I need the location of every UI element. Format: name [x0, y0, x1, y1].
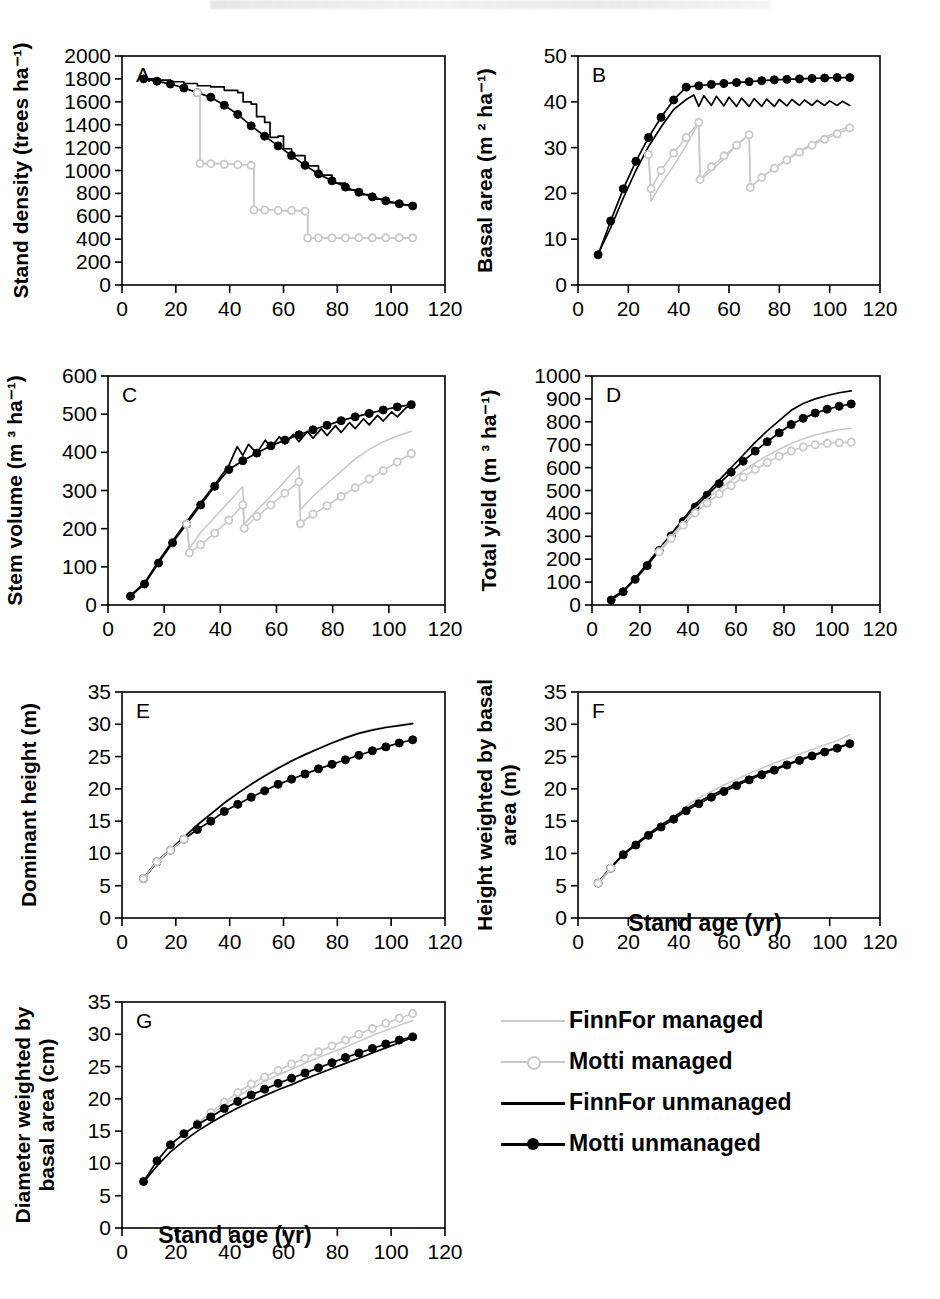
y-tick-label: 200 — [546, 547, 581, 570]
data-point-marker — [314, 1064, 322, 1072]
data-point-marker — [288, 152, 296, 160]
y-axis-title-line: basal area (cm) — [35, 1039, 58, 1192]
x-tick-label: 80 — [326, 930, 349, 953]
data-point-marker — [396, 1015, 403, 1022]
x-axis-ticks: 020406080100120 — [586, 605, 897, 640]
data-point-marker — [758, 174, 765, 181]
data-point-marker — [194, 89, 201, 96]
data-point-marker — [328, 177, 336, 185]
series-line — [598, 95, 850, 254]
data-point-marker — [733, 142, 740, 149]
data-point-marker — [261, 206, 268, 213]
data-point-marker — [847, 400, 855, 408]
data-point-marker — [720, 79, 728, 87]
data-point-marker — [619, 851, 627, 859]
y-tick-label: 10 — [544, 841, 567, 864]
data-point-marker — [695, 82, 703, 90]
y-tick-label: 10 — [88, 1151, 111, 1174]
data-point-marker — [197, 541, 204, 548]
data-point-marker — [193, 1121, 201, 1129]
y-tick-label: 100 — [546, 570, 581, 593]
data-point-marker — [183, 520, 190, 527]
data-point-marker — [250, 206, 257, 213]
data-point-marker — [140, 75, 148, 83]
data-series-group — [126, 401, 415, 601]
chart-svg-c: 0100200300400500600020406080100120Stem v… — [0, 350, 470, 670]
legend-item: Motti managed — [497, 1041, 927, 1082]
data-point-marker — [180, 1130, 188, 1138]
legend-item: FinnFor managed — [497, 1000, 927, 1041]
data-point-marker — [394, 458, 401, 465]
data-point-marker — [166, 1141, 174, 1149]
data-point-marker — [795, 756, 803, 764]
y-tick-label: 300 — [62, 479, 97, 502]
y-axis-title: Dominant height (m) — [17, 703, 40, 907]
y-tick-label: 0 — [555, 273, 567, 296]
data-point-marker — [355, 234, 362, 241]
y-tick-label: 30 — [544, 712, 567, 735]
x-tick-label: 100 — [814, 617, 849, 640]
x-tick-label: 60 — [265, 617, 288, 640]
legend-label: FinnFor managed — [569, 1007, 763, 1034]
data-point-marker — [695, 800, 703, 808]
y-tick-label: 25 — [88, 1055, 111, 1078]
data-point-marker — [140, 875, 147, 882]
legend-line-sample — [497, 1093, 569, 1113]
y-tick-label: 30 — [88, 712, 111, 735]
data-point-marker — [733, 79, 741, 87]
data-point-marker — [668, 535, 675, 542]
y-tick-label: 600 — [76, 204, 111, 227]
legend-item: FinnFor unmanaged — [497, 1082, 927, 1123]
xaxis-title-panel-f: Stand age (yr) — [470, 910, 940, 937]
data-point-marker — [261, 1085, 269, 1093]
y-axis-title: Stem volume (m ³ ha⁻¹) — [3, 375, 26, 605]
data-point-marker — [783, 75, 791, 83]
data-point-marker — [281, 490, 288, 497]
data-point-marker — [382, 197, 390, 205]
data-point-marker — [301, 1069, 309, 1077]
y-axis-title-line: area (m) — [497, 764, 520, 846]
data-point-marker — [846, 740, 854, 748]
y-axis-ticks: 0200400600800100012001400160018002000 — [64, 44, 122, 296]
data-point-marker — [341, 1054, 349, 1062]
data-point-marker — [275, 207, 282, 214]
data-point-marker — [315, 234, 322, 241]
y-tick-label: 35 — [88, 990, 111, 1013]
data-point-marker — [220, 807, 228, 815]
data-point-marker — [314, 170, 322, 178]
data-point-marker — [220, 101, 228, 109]
data-point-marker — [247, 1091, 255, 1099]
data-series-group — [140, 75, 417, 242]
data-point-marker — [695, 119, 702, 126]
y-tick-label: 15 — [544, 809, 567, 832]
data-point-marker — [328, 1042, 335, 1049]
series-line — [144, 1037, 413, 1182]
data-point-marker — [153, 77, 161, 85]
data-point-marker — [239, 501, 246, 508]
data-point-marker — [682, 83, 690, 91]
data-point-marker — [234, 161, 241, 168]
data-point-marker — [337, 493, 344, 500]
xaxis-title-panel-g: Stand age (yr) — [0, 1222, 470, 1249]
data-point-marker — [644, 134, 652, 142]
data-series-group — [607, 391, 855, 604]
data-point-marker — [274, 1079, 282, 1087]
data-series-group — [594, 735, 854, 888]
data-point-marker — [846, 124, 853, 131]
data-point-marker — [351, 413, 359, 421]
data-point-marker — [301, 208, 308, 215]
data-point-marker — [771, 165, 778, 172]
y-axis-title-line: Height weighted by basal — [473, 679, 496, 931]
data-point-marker — [739, 457, 747, 465]
data-point-marker — [211, 530, 218, 537]
legend: FinnFor managedMotti managedFinnFor unma… — [497, 1000, 927, 1164]
y-tick-label: 900 — [546, 387, 581, 410]
y-tick-label: 500 — [62, 402, 97, 425]
data-point-marker — [382, 234, 389, 241]
y-tick-label: 35 — [544, 680, 567, 703]
panel-letter: E — [136, 699, 150, 722]
x-axis-ticks: 020406080100120 — [116, 918, 462, 953]
chart-svg-e: 05101520253035020406080100120Dominant he… — [0, 670, 470, 980]
data-point-marker — [657, 113, 665, 121]
y-axis-ticks: 05101520253035 — [88, 680, 122, 929]
